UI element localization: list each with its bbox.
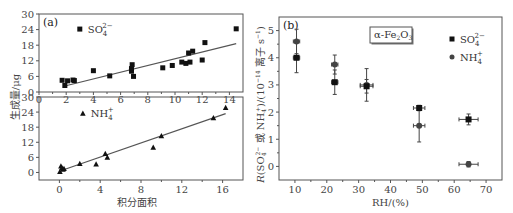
y-tick-label: 4 — [268, 52, 274, 63]
y-tick-label: 6 — [28, 71, 34, 82]
x-tick-label: 6 — [117, 94, 123, 105]
triangle-marker — [223, 105, 229, 110]
square-marker — [72, 78, 77, 83]
fit-line — [65, 44, 236, 86]
x-tick-label: 10 — [169, 94, 182, 105]
square-marker — [202, 40, 207, 45]
legend-label-ammonium: NH4+ — [91, 106, 114, 122]
x-tick-label: 70 — [480, 184, 493, 195]
x-tick-label: 50 — [416, 184, 429, 195]
triangle-marker — [150, 144, 156, 149]
y-tick-label: 0 — [268, 161, 274, 172]
square-marker — [364, 83, 370, 89]
x-tick-label: 4 — [97, 184, 103, 195]
square-marker — [416, 105, 422, 111]
square-marker — [60, 78, 65, 83]
legend-label-sulfate: SO42− — [88, 22, 113, 38]
y-tick-label: 3 — [268, 79, 274, 90]
square-marker — [187, 60, 192, 65]
y-tick-label: 12 — [21, 137, 34, 148]
y-tick-label: 5 — [268, 25, 274, 36]
triangle-marker — [80, 110, 86, 115]
square-marker — [190, 49, 195, 54]
y-tick-label: 0 — [28, 167, 34, 178]
x-tick-label: 10 — [289, 184, 302, 195]
panel-label: (a) — [43, 16, 58, 29]
panel-a-sulfate-plot: 061218243002468101214(a)SO42− — [21, 9, 243, 106]
square-marker — [130, 62, 135, 67]
square-marker — [131, 74, 136, 79]
square-marker — [160, 65, 165, 70]
y-tick-label: 24 — [21, 107, 34, 118]
x-tick-label: 0 — [56, 184, 62, 195]
square-marker — [91, 68, 96, 73]
triangle-marker — [93, 161, 99, 166]
y-tick-label: 24 — [21, 24, 34, 35]
square-marker — [170, 63, 175, 68]
x-tick-label: 30 — [352, 184, 365, 195]
x-tick-label: 8 — [145, 94, 151, 105]
circle-marker — [332, 62, 338, 68]
y-axis-title: R(SO42− 或 NH4+)/(10−14 离子 s−1) — [254, 26, 267, 184]
legend-label-sulfate: SO42− — [460, 32, 485, 48]
x-tick-label: 60 — [448, 184, 461, 195]
y-tick-label: 2 — [268, 107, 274, 118]
y-tick-label: 18 — [21, 40, 34, 51]
legend-label-ammonium: NH4+ — [460, 50, 483, 66]
x-tick-label: 14 — [223, 94, 236, 105]
x-axis-title: RH/(%) — [372, 197, 409, 208]
x-tick-label: 8 — [138, 184, 144, 195]
square-marker — [62, 83, 67, 88]
square-marker — [77, 27, 82, 32]
panel-b-rate-plot: 01234510203040506070RH/(%)R(SO42− 或 NH4+… — [254, 17, 502, 208]
circle-marker — [466, 161, 472, 167]
material-label: α-Fe2O3 — [374, 29, 412, 41]
x-tick-label: 16 — [216, 184, 229, 195]
x-tick-label: 12 — [196, 94, 209, 105]
x-tick-label: 4 — [90, 94, 96, 105]
fit-line — [61, 114, 225, 171]
panel-a-ammonium-plot: 06121824300481216积分面积NH4+ — [21, 92, 243, 209]
circle-marker — [450, 55, 455, 60]
x-axis-title: 积分面积 — [117, 197, 157, 208]
x-tick-label: 20 — [320, 184, 333, 195]
square-marker — [466, 116, 472, 122]
circle-marker — [416, 123, 422, 129]
square-marker — [234, 26, 239, 31]
square-marker — [129, 69, 134, 74]
square-marker — [450, 37, 455, 42]
y-tick-label: 30 — [21, 92, 34, 103]
y-tick-label: 1 — [268, 134, 274, 145]
square-marker — [107, 73, 112, 78]
square-marker — [294, 55, 300, 61]
square-marker — [332, 79, 338, 85]
panel-a-y-axis-title: 生成量/μg — [9, 73, 21, 120]
x-tick-label: 2 — [63, 94, 69, 105]
square-marker — [65, 78, 70, 83]
x-tick-label: 40 — [384, 184, 397, 195]
square-marker — [200, 58, 205, 63]
figure: 061218243002468101214(a)SO42− 0612182430… — [0, 0, 513, 213]
y-tick-label: 30 — [21, 9, 34, 20]
y-tick-label: 18 — [21, 122, 34, 133]
x-tick-label: 12 — [175, 184, 188, 195]
y-tick-label: 12 — [21, 55, 34, 66]
y-tick-label: 6 — [28, 152, 34, 163]
